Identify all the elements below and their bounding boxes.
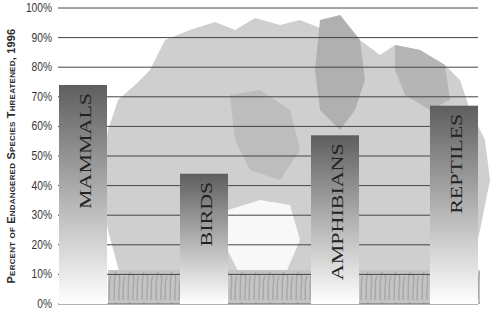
y-axis-title-wrap: Percent of Endangered Species Threatened… <box>2 8 20 304</box>
y-axis-title: Percent of Endangered Species Threatened… <box>5 29 17 284</box>
y-tick-label: 90% <box>25 31 52 45</box>
y-tick-label: 50% <box>25 149 52 163</box>
bar-label: MAMMALS <box>75 93 94 209</box>
bar-birds: BIRDS <box>180 174 228 304</box>
bar-label: BIRDS <box>196 182 215 247</box>
y-tick-label: 40% <box>25 179 52 193</box>
y-tick-label: 70% <box>25 90 52 104</box>
y-tick-label: 0% <box>25 297 52 311</box>
bar-chart: MAMMALSBIRDSAMPHIBIANSREPTILES Percent o… <box>0 0 498 312</box>
bar-reptiles: REPTILES <box>430 106 478 304</box>
y-tick-label: 100% <box>25 1 52 15</box>
y-tick-label: 60% <box>25 119 52 133</box>
y-tick-label: 20% <box>25 238 52 252</box>
bar-label: AMPHIBIANS <box>327 143 346 280</box>
bar-label: REPTILES <box>446 114 465 214</box>
y-tick-label: 30% <box>25 208 52 222</box>
y-tick-label: 10% <box>25 267 52 281</box>
plot-area: MAMMALSBIRDSAMPHIBIANSREPTILES <box>0 0 498 312</box>
bar-mammals: MAMMALS <box>59 85 107 304</box>
y-tick-label: 80% <box>25 60 52 74</box>
bar-amphibians: AMPHIBIANS <box>311 135 359 304</box>
